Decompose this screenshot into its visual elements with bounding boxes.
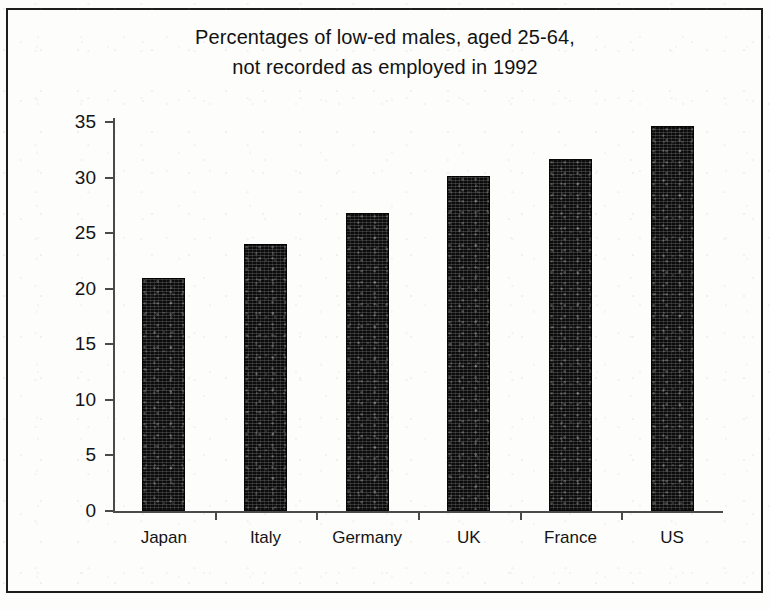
y-axis-tick-label: 10 xyxy=(36,390,96,409)
x-axis-category-label: France xyxy=(520,528,622,548)
x-axis-category-label: Japan xyxy=(113,528,215,548)
bar xyxy=(142,278,185,511)
y-axis-tick-label: 20 xyxy=(36,279,96,298)
bar xyxy=(447,176,490,511)
y-axis-tick-label: 30 xyxy=(36,168,96,187)
y-axis-tick-label: 0 xyxy=(36,501,96,520)
y-axis-tick xyxy=(105,177,114,179)
bar xyxy=(244,244,287,511)
bar xyxy=(346,213,389,511)
x-axis-category-label: US xyxy=(621,528,723,548)
x-axis-category-label: Italy xyxy=(215,528,317,548)
y-axis-tick xyxy=(105,232,114,234)
bar xyxy=(549,159,592,511)
x-axis-tick xyxy=(520,511,522,520)
x-axis-tick xyxy=(418,511,420,520)
plot-area: 05101520253035 JapanItalyGermanyUKFrance… xyxy=(0,0,770,610)
x-axis-tick xyxy=(215,511,217,520)
y-axis-tick xyxy=(105,510,114,512)
y-axis-tick-label: 35 xyxy=(36,112,96,131)
y-axis-tick xyxy=(105,454,114,456)
bar xyxy=(651,126,694,511)
x-axis-category-label: UK xyxy=(418,528,520,548)
x-axis-tick xyxy=(621,511,623,520)
x-axis-tick xyxy=(316,511,318,520)
y-axis-tick-label: 25 xyxy=(36,223,96,242)
y-axis-tick xyxy=(105,343,114,345)
y-axis-tick xyxy=(105,121,114,123)
y-axis-tick xyxy=(105,288,114,290)
y-axis-tick-label: 5 xyxy=(36,445,96,464)
chart-figure: Percentages of low-ed males, aged 25-64,… xyxy=(0,0,770,610)
y-axis-tick xyxy=(105,399,114,401)
y-axis-tick-label: 15 xyxy=(36,334,96,353)
x-axis-category-label: Germany xyxy=(316,528,418,548)
